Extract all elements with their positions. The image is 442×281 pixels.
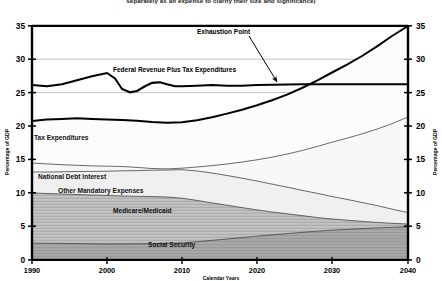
y-tick-20: 20 <box>16 121 26 131</box>
y-tick-right-20: 20 <box>416 121 426 131</box>
band-label-national-debt-interest: National Debt Interest <box>38 173 107 180</box>
y-tick-30: 30 <box>16 54 26 64</box>
y-axis-title-left: Percentage of GDP <box>4 128 10 175</box>
band-label-tax-expenditures: Tax Expenditures <box>34 134 89 142</box>
y-tick-right-5: 5 <box>416 221 421 231</box>
band-label-other-mandatory-expenses: Other Mandatory Expenses <box>58 187 144 195</box>
y-axis-labels-left: 35 30 25 20 15 10 5 0 <box>16 21 26 265</box>
y-axis-title-right: Percentage of GDP <box>432 128 438 175</box>
x-tick-2020: 2020 <box>249 266 265 275</box>
y-tick-right-30: 30 <box>416 54 426 64</box>
y-tick-right-10: 10 <box>416 188 426 198</box>
y-tick-25: 25 <box>16 88 26 98</box>
band-label-social-security: Social Security <box>148 241 196 249</box>
annotation-federal-revenue-line: Federal Revenue Plus Tax Expenditures <box>113 66 236 74</box>
band-label-medicare-medicaid: Medicare/Medicaid <box>113 207 172 214</box>
y-tick-35: 35 <box>16 21 26 31</box>
x-axis-labels: 1990 2000 2010 2020 2030 2040 <box>24 266 416 275</box>
y-axis-labels-right: 35 30 25 20 15 10 5 0 <box>416 21 426 265</box>
y-tick-15: 15 <box>16 154 26 164</box>
chart-figure: separately as an expense to clarify thei… <box>0 0 442 281</box>
annotation-exhaustion-point: Exhaustion Point <box>197 28 251 35</box>
y-tick-5: 5 <box>20 221 25 231</box>
y-tick-right-35: 35 <box>416 21 426 31</box>
y-tick-right-25: 25 <box>416 88 426 98</box>
y-tick-right-15: 15 <box>416 154 426 164</box>
y-tick-right-0: 0 <box>416 255 421 265</box>
x-tick-2010: 2010 <box>174 266 190 275</box>
y-tick-10: 10 <box>16 188 26 198</box>
y-tick-0: 0 <box>20 255 25 265</box>
x-tick-2030: 2030 <box>324 266 340 275</box>
x-axis-title: Calendar Years <box>203 275 240 281</box>
x-tick-2040: 2040 <box>400 266 416 275</box>
x-tick-2000: 2000 <box>99 266 115 275</box>
chart-svg: 35 30 25 20 15 10 5 0 35 30 25 20 15 10 … <box>0 0 442 281</box>
chart-plot-area: 35 30 25 20 15 10 5 0 35 30 25 20 15 10 … <box>0 0 442 281</box>
x-tick-1990: 1990 <box>24 266 40 275</box>
